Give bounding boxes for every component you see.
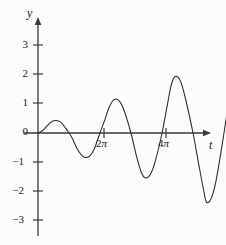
- y-tick-label-2: 2: [12, 68, 28, 79]
- y-axis-label: y: [27, 7, 32, 19]
- graph-figure: 3 2 1 0 −1 −2 −3 2π 4π y t: [0, 0, 226, 245]
- y-tick-label-neg2: −2: [8, 185, 24, 196]
- y-tick-label-1: 1: [12, 97, 28, 108]
- y-tick-label-3: 3: [12, 39, 28, 50]
- y-tick-label-0: 0: [12, 126, 28, 137]
- x-tick-label-2pi: 2π: [96, 138, 107, 149]
- x-tick-label-2pi-symbol: π: [102, 137, 108, 149]
- y-tick-label-neg3: −3: [8, 214, 24, 225]
- oscillation-curve: [38, 33, 226, 227]
- x-tick-label-4pi: 4π: [158, 138, 169, 149]
- plot-canvas: [0, 0, 226, 245]
- x-axis-label: t: [209, 139, 212, 151]
- x-tick-label-4pi-symbol: π: [164, 137, 170, 149]
- y-axis: [35, 17, 42, 236]
- y-axis-arrow-icon: [35, 17, 42, 25]
- y-tick-label-neg1: −1: [8, 156, 24, 167]
- x-axis: [24, 130, 211, 136]
- x-axis-arrow-icon: [203, 130, 211, 136]
